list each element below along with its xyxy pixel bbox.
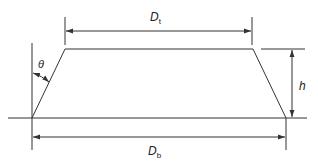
height-label: h: [299, 79, 306, 93]
bottom-width-dimension: Db: [32, 118, 286, 160]
angle-label: θ: [38, 58, 44, 70]
right-slope-edge: [253, 49, 286, 118]
bottom-width-label: Db: [148, 144, 162, 160]
top-width-dimension: Dt: [65, 10, 252, 45]
trapezoid-dimension-diagram: Dt Db h θ: [0, 0, 318, 165]
angle-arc: [33, 73, 49, 82]
trapezoid-shape: [32, 49, 286, 118]
height-dimension: h: [261, 49, 306, 117]
angle-annotation: θ: [32, 43, 49, 118]
left-slope-edge: [32, 49, 65, 118]
top-width-label: Dt: [150, 10, 162, 26]
